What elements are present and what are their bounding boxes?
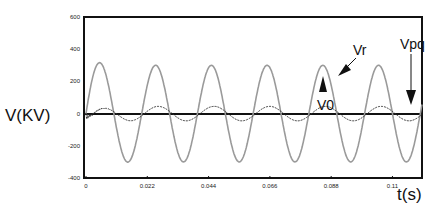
chart: 6004002000-200-400 00.0220.0440.0660.088… — [0, 0, 445, 215]
annotation-vr: Vr — [353, 42, 367, 58]
y-axis-label: V(KV) — [5, 106, 50, 125]
arrow-vpq-head — [406, 90, 416, 105]
series-vr — [86, 63, 422, 162]
arrow-vr-head — [338, 64, 351, 76]
y-tick-label: 600 — [70, 14, 81, 20]
y-tick-label: 0 — [77, 111, 81, 117]
annotation-vpq: Vpq — [400, 36, 425, 52]
x-tick-label: 0.044 — [201, 183, 217, 189]
x-tick-label: 0 — [84, 183, 88, 189]
annotation-v0: V0 — [317, 97, 334, 113]
plot-frame — [84, 17, 422, 178]
arrow-v0-head — [319, 76, 327, 92]
y-tick-label: -200 — [68, 143, 81, 149]
x-axis-label: t(s) — [397, 185, 422, 204]
y-tick-label: -400 — [68, 175, 81, 181]
x-tick-label: 0.088 — [324, 183, 340, 189]
x-tick-label: 0.066 — [262, 183, 278, 189]
y-tick-label: 200 — [70, 78, 81, 84]
x-tick-label: 0.022 — [140, 183, 156, 189]
y-tick-label: 400 — [70, 46, 81, 52]
